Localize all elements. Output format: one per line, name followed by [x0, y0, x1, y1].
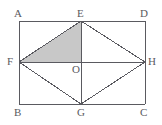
- vertex-label-b: B: [14, 107, 21, 118]
- segment-group: [19, 21, 145, 104]
- vertex-label-o: O: [72, 64, 80, 75]
- rhombus-side-EH: [81, 21, 145, 62]
- vertex-label-d: D: [140, 8, 148, 19]
- geometry-figure: ADBCEGFHO: [0, 0, 162, 125]
- vertex-label-f: F: [7, 56, 13, 67]
- vertex-label-c: C: [140, 107, 147, 118]
- vertex-label-g: G: [77, 107, 85, 118]
- vertex-label-h: H: [148, 56, 156, 67]
- rhombus-side-GH: [81, 62, 145, 104]
- vertex-label-e: E: [77, 8, 84, 19]
- vertex-label-a: A: [14, 8, 22, 19]
